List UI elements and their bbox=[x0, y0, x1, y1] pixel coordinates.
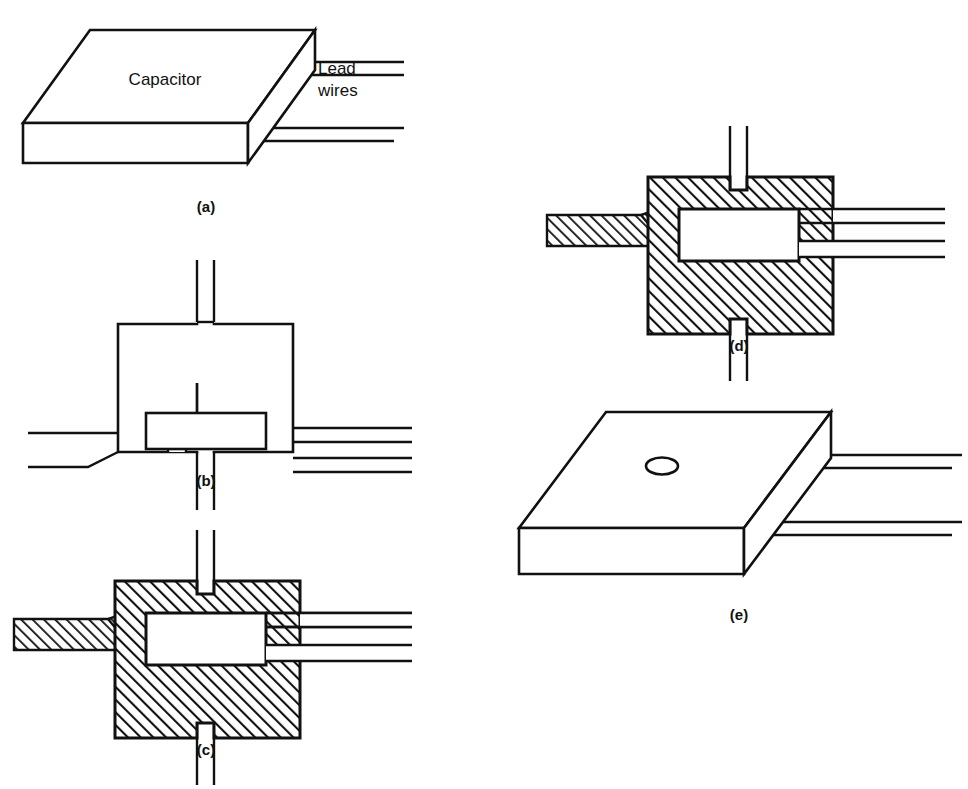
figure-root: Capacitor Lead wires (a) bbox=[0, 0, 968, 789]
panel-d-left-lead-band bbox=[547, 215, 653, 246]
panel-c-right-channel-upper-fill bbox=[300, 613, 412, 627]
capacitor-front-face bbox=[23, 123, 248, 163]
panel-c-right-channel-lower-fill bbox=[266, 645, 412, 661]
panel-d-inner-capacitor bbox=[679, 209, 799, 261]
panel-label-c: (c) bbox=[197, 741, 215, 758]
panel-c-inner-capacitor bbox=[146, 613, 266, 665]
panel-label-a: (a) bbox=[197, 198, 215, 215]
panel-b-inner-capacitor bbox=[146, 413, 266, 449]
panel-c-left-lead-band bbox=[14, 619, 120, 650]
vent-hole-icon bbox=[646, 458, 678, 475]
lead-wires-label-line-1: Lead bbox=[318, 59, 356, 78]
panel-label-e: (e) bbox=[730, 606, 748, 623]
lead-wires-label-line-2: wires bbox=[317, 81, 358, 100]
encapsulation-figure: Capacitor Lead wires (a) bbox=[0, 0, 968, 789]
panel-label-b: (b) bbox=[196, 472, 215, 489]
panel-label-d: (d) bbox=[729, 337, 748, 354]
panel-e-front-face bbox=[519, 528, 744, 574]
panel-d-right-channel-lower-fill bbox=[799, 241, 945, 257]
capacitor-label: Capacitor bbox=[129, 70, 202, 89]
panel-d-right-channel-upper-fill bbox=[833, 209, 945, 223]
